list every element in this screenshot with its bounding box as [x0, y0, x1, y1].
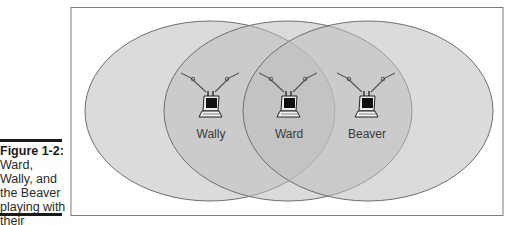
node-label-wally: Wally [197, 127, 226, 141]
wireless-range-diagram: Wally Ward Beaver [0, 0, 526, 225]
node-label-ward: Ward [275, 127, 303, 141]
node-label-beaver: Beaver [348, 127, 386, 141]
